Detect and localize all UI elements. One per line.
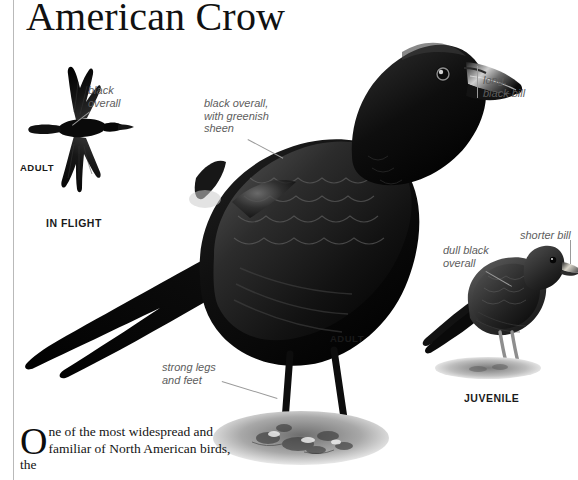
intro-paragraph-text: ne of the most widespread and familiar o… (20, 424, 230, 472)
leader-line-juvenile-shorter-bill (570, 240, 571, 264)
caption-main-adult: ADULT (330, 333, 364, 344)
rocky-ground-patch (212, 408, 390, 470)
leader-line-long-black-bill (477, 66, 478, 98)
label-adult-black-greenish-sheen: black overall, with greenish sheen (204, 97, 269, 135)
label-long-black-bill: long, black bill (483, 74, 525, 99)
label-juvenile-shorter-bill: shorter bill (520, 229, 571, 242)
label-strong-legs-and-feet: strong legs and feet (162, 361, 216, 386)
field-guide-page: American Crow (0, 0, 578, 480)
intro-paragraph: One of the most widespread and familiar … (20, 424, 235, 474)
caption-juvenile: JUVENILE (464, 392, 519, 404)
drop-cap: O (20, 426, 47, 456)
label-juvenile-dull-black-overall: dull black overall (443, 244, 489, 269)
ground-shadow-patch (434, 356, 542, 380)
